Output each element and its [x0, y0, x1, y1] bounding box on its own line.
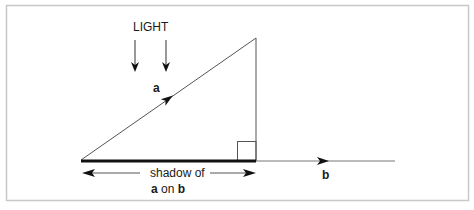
diagram-frame [7, 6, 469, 201]
vector-a-arrow-icon [161, 92, 175, 105]
shadow-label-on: on [158, 182, 178, 196]
shadow-label-line1: shadow of [150, 166, 205, 180]
light-label: LIGHT [133, 20, 169, 34]
vector-projection-diagram: LIGHT a b shadow of a on b [0, 0, 474, 210]
right-angle-marker [238, 142, 257, 161]
light-arrow-left-icon [131, 40, 139, 72]
shadow-label-b: b [178, 182, 185, 196]
vector-b-label: b [322, 168, 329, 182]
light-arrow-right-icon [162, 40, 170, 72]
vector-a-label: a [153, 81, 160, 95]
shadow-label-line2: a on b [151, 182, 185, 196]
